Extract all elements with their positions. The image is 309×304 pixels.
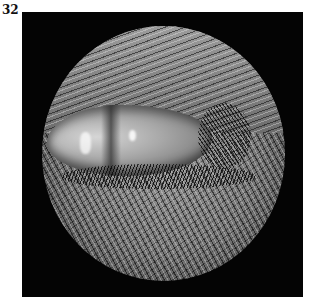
eye-highlight xyxy=(129,130,136,141)
eye-highlight xyxy=(80,132,92,153)
circular-lens-view xyxy=(42,26,285,281)
eyelashes-corner xyxy=(198,103,251,169)
lower-eyelashes xyxy=(61,164,255,190)
photo-frame xyxy=(22,12,303,297)
figure-label: 32 xyxy=(2,3,19,17)
